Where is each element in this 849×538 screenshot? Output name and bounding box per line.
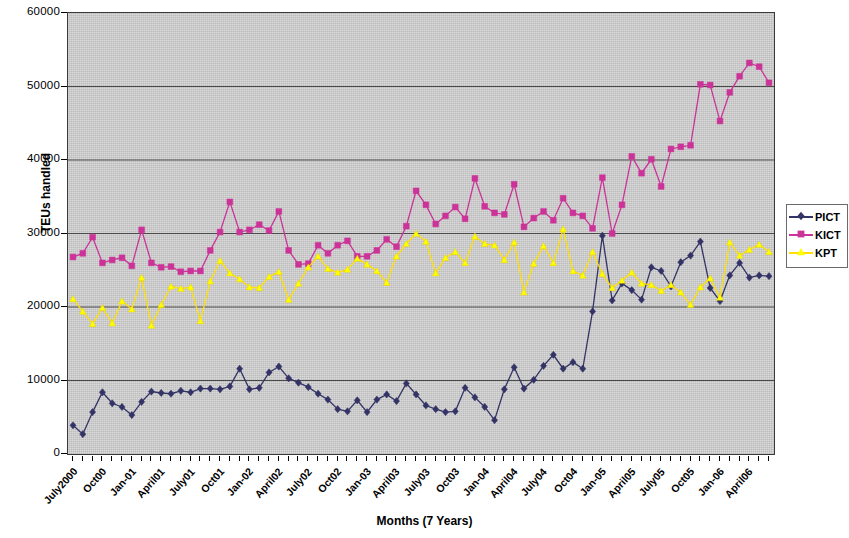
data-point	[452, 249, 459, 255]
x-axis-tick-mark	[366, 456, 367, 461]
data-point	[746, 246, 753, 252]
data-point	[80, 250, 86, 256]
data-point	[590, 225, 596, 231]
x-axis-tick-mark	[239, 456, 240, 461]
data-point	[511, 364, 517, 371]
x-axis-tick-label: Oct00	[80, 465, 108, 495]
x-axis-tick-mark	[748, 456, 749, 461]
x-axis-tick-label: Jan-02	[224, 465, 255, 498]
x-axis-tick-mark	[641, 456, 642, 461]
x-axis-tick-mark	[82, 456, 83, 461]
x-axis-tick-label: Jan-04	[460, 465, 491, 498]
data-point	[443, 213, 449, 219]
data-point	[188, 268, 194, 274]
data-point	[658, 287, 665, 293]
x-axis-tick-mark	[523, 456, 524, 461]
data-point	[198, 268, 204, 274]
data-point	[168, 283, 175, 289]
data-point	[315, 253, 322, 259]
legend-item-pict[interactable]: PICT	[789, 208, 840, 225]
data-point	[717, 118, 723, 124]
data-point	[374, 268, 381, 274]
data-point	[482, 203, 488, 209]
data-point	[668, 146, 674, 152]
data-point	[756, 272, 762, 279]
data-point	[178, 387, 184, 394]
data-point	[590, 308, 596, 315]
data-point	[452, 204, 458, 210]
data-point	[599, 271, 606, 277]
x-axis-tick-mark	[503, 456, 504, 461]
x-axis-tick-mark	[631, 456, 632, 461]
x-axis-tick-mark	[533, 456, 534, 461]
data-point	[570, 268, 577, 274]
legend-line-swatch	[789, 252, 813, 254]
x-axis-tick-mark	[543, 456, 544, 461]
y-axis-tick-label: 30000	[0, 226, 60, 238]
x-axis-tick-mark	[180, 456, 181, 461]
x-axis-tick-mark	[356, 456, 357, 461]
data-point	[580, 213, 586, 219]
data-point	[678, 259, 684, 266]
x-axis-tick-mark	[729, 456, 730, 461]
data-point	[511, 239, 518, 245]
x-axis-tick-mark	[72, 456, 73, 461]
data-point	[197, 318, 204, 324]
x-axis-tick-mark	[288, 456, 289, 461]
x-axis-tick-mark	[199, 456, 200, 461]
data-point	[217, 386, 223, 393]
data-point	[188, 389, 194, 396]
data-point	[550, 260, 557, 266]
x-axis-tick-label: April04	[487, 465, 520, 499]
x-axis-tick-mark	[690, 456, 691, 461]
data-point	[178, 269, 184, 275]
x-axis-tick-mark	[650, 456, 651, 461]
data-point	[207, 385, 213, 392]
data-point	[158, 301, 165, 307]
data-point	[197, 385, 203, 392]
data-point	[756, 64, 762, 70]
legend-line-swatch	[789, 216, 813, 218]
data-point	[207, 248, 213, 254]
series-kict	[70, 60, 772, 275]
x-axis-tick-mark	[170, 456, 171, 461]
x-axis-tick-mark	[229, 456, 230, 461]
data-point	[413, 188, 419, 194]
data-point	[589, 249, 596, 255]
x-axis-tick-mark	[248, 456, 249, 461]
y-axis-tick-label: 60000	[0, 5, 60, 17]
legend-label: KICT	[815, 229, 841, 241]
data-point	[756, 241, 763, 247]
data-point	[648, 264, 654, 271]
chart-legend: PICTKICTKPT	[786, 204, 848, 268]
x-axis-tick-mark	[131, 456, 132, 461]
data-point	[678, 144, 684, 150]
data-point	[158, 264, 164, 270]
data-point	[158, 389, 164, 396]
data-point	[472, 175, 478, 181]
x-axis-tick-mark	[562, 456, 563, 461]
y-axis-tick-label: 20000	[0, 299, 60, 311]
data-point	[315, 242, 321, 248]
data-point	[345, 238, 351, 244]
legend-item-kpt[interactable]: KPT	[789, 244, 837, 261]
x-axis-tick-mark	[386, 456, 387, 461]
data-point	[472, 233, 479, 239]
legend-marker-diamond-icon	[795, 210, 807, 222]
data-point	[432, 270, 439, 276]
data-point	[119, 255, 125, 261]
data-point	[374, 248, 380, 254]
x-axis-tick-label: July01	[166, 465, 197, 497]
legend-item-kict[interactable]: KICT	[789, 226, 841, 243]
data-point	[296, 261, 302, 267]
plot-area	[67, 12, 775, 455]
x-axis-tick-mark	[719, 456, 720, 461]
data-point	[599, 175, 605, 181]
x-axis-tick-label: July2000	[41, 465, 80, 506]
x-axis-tick-mark	[209, 456, 210, 461]
legend-marker-triangle-icon	[795, 246, 807, 258]
x-axis-tick-label: Oct05	[668, 465, 696, 495]
legend-label: PICT	[815, 211, 840, 223]
data-point	[138, 274, 145, 280]
data-point	[560, 195, 566, 201]
